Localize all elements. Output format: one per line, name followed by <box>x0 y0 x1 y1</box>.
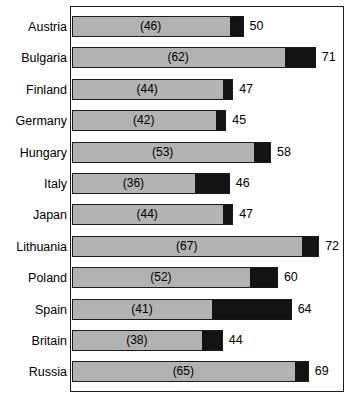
bar-inner-value-label: (38) <box>72 330 203 351</box>
bar-inner-value-label: (53) <box>72 142 254 163</box>
bar-segment-black <box>212 300 290 319</box>
category-label: Bulgaria <box>21 47 67 69</box>
bar-total-value-label: 69 <box>315 361 329 382</box>
chart-row: Spain(41)64 <box>0 299 353 321</box>
chart-row: Bulgaria(62)71 <box>0 47 353 69</box>
bar-total-value-label: 71 <box>322 47 336 68</box>
category-label: Spain <box>35 299 67 321</box>
bar-total-value-label: 50 <box>250 16 264 37</box>
chart-row: Japan(44)47 <box>0 204 353 226</box>
bar-total-value-label: 72 <box>325 236 339 257</box>
bar-segment-black <box>295 362 308 381</box>
chart-row: Hungary(53)58 <box>0 142 353 164</box>
bar-segment-black <box>195 174 229 193</box>
chart-row: Germany(42)45 <box>0 110 353 132</box>
category-label: Lithuania <box>16 236 67 258</box>
chart-row: Russia(65)69 <box>0 361 353 383</box>
category-label: Italy <box>44 173 67 195</box>
category-label: Hungary <box>20 142 67 164</box>
category-label: Japan <box>33 204 67 226</box>
bar-inner-value-label: (41) <box>72 299 213 320</box>
bar-segment-black <box>230 17 243 36</box>
chart-row: Italy(36)46 <box>0 173 353 195</box>
bar-segment-black <box>250 268 277 287</box>
bar-inner-value-label: (44) <box>72 204 223 225</box>
category-label: Poland <box>28 267 67 289</box>
category-label: Britain <box>32 330 67 352</box>
bar-total-value-label: 64 <box>298 299 312 320</box>
bar-total-value-label: 46 <box>236 173 250 194</box>
bar-segment-black <box>285 48 315 67</box>
bar-segment-black <box>223 80 233 99</box>
bar-segment-black <box>216 111 226 130</box>
bar-wrapper: (44)47 <box>72 79 234 101</box>
bar-wrapper: (53)58 <box>72 142 272 164</box>
bar-inner-value-label: (44) <box>72 79 223 100</box>
bar-wrapper: (67)72 <box>72 236 320 258</box>
category-label: Austria <box>28 16 67 38</box>
bar-inner-value-label: (65) <box>72 361 296 382</box>
bar-total-value-label: 60 <box>284 267 298 288</box>
bar-wrapper: (42)45 <box>72 110 227 132</box>
chart-row: Britain(38)44 <box>0 330 353 352</box>
bar-inner-value-label: (46) <box>72 16 230 37</box>
bar-segment-black <box>302 237 318 256</box>
bar-total-value-label: 44 <box>229 330 243 351</box>
bar-chart: Austria(46)50Bulgaria(62)71Finland(44)47… <box>0 0 353 403</box>
category-label: Germany <box>16 110 67 132</box>
bar-inner-value-label: (62) <box>72 47 285 68</box>
bar-total-value-label: 45 <box>232 110 246 131</box>
bar-inner-value-label: (42) <box>72 110 216 131</box>
chart-row: Austria(46)50 <box>0 16 353 38</box>
bar-segment-black <box>202 331 222 350</box>
bar-inner-value-label: (36) <box>72 173 196 194</box>
bar-wrapper: (62)71 <box>72 47 316 69</box>
bar-inner-value-label: (52) <box>72 267 251 288</box>
bar-total-value-label: 47 <box>239 79 253 100</box>
bar-total-value-label: 47 <box>239 204 253 225</box>
chart-row: Lithuania(67)72 <box>0 236 353 258</box>
bar-wrapper: (46)50 <box>72 16 244 38</box>
bar-wrapper: (52)60 <box>72 267 278 289</box>
bar-wrapper: (38)44 <box>72 330 223 352</box>
bar-inner-value-label: (67) <box>72 236 302 257</box>
chart-row: Poland(52)60 <box>0 267 353 289</box>
chart-row: Finland(44)47 <box>0 79 353 101</box>
category-label: Russia <box>29 361 67 383</box>
bar-total-value-label: 58 <box>277 142 291 163</box>
category-label: Finland <box>26 79 67 101</box>
bar-wrapper: (65)69 <box>72 361 309 383</box>
bar-segment-black <box>254 143 270 162</box>
bar-wrapper: (36)46 <box>72 173 230 195</box>
bar-segment-black <box>223 205 233 224</box>
bar-wrapper: (41)64 <box>72 299 292 321</box>
bar-wrapper: (44)47 <box>72 204 234 226</box>
